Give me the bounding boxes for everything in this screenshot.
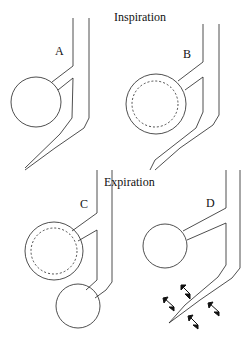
heading-expiration: Expiration xyxy=(104,175,155,190)
diagram-figure: Inspiration Expiration A B C D xyxy=(0,0,248,341)
panel-c-drawing xyxy=(25,170,112,328)
panel-label-c: C xyxy=(80,197,88,212)
panel-label-d: D xyxy=(206,196,215,211)
panel-a-drawing xyxy=(11,18,89,170)
heading-inspiration: Inspiration xyxy=(114,10,166,25)
panel-d-drawing xyxy=(143,170,240,329)
diagram-drawing xyxy=(0,0,248,341)
alveolus-sac-b xyxy=(126,74,186,134)
alveolus-sac-a xyxy=(11,77,61,127)
panel-label-b: B xyxy=(183,47,191,62)
alveolus-sac-c xyxy=(25,222,83,280)
alveolus-sac-c-lower xyxy=(56,284,100,328)
alveolus-sac-d xyxy=(143,224,187,268)
dashed-outline-b xyxy=(132,81,178,127)
panel-label-a: A xyxy=(55,44,64,59)
dashed-outline-c xyxy=(31,228,77,274)
panel-b-drawing xyxy=(126,24,219,170)
